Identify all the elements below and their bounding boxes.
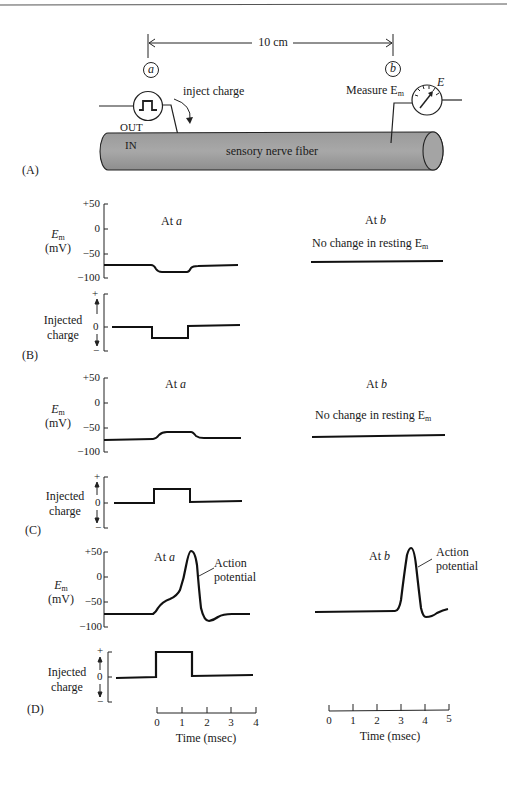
tick-d-plus50: +50 [64,545,102,558]
ap-label-a-1: Action [214,557,247,570]
at-a-label-c: At a [165,378,186,391]
charge-tick-0-b: 0 [93,320,99,333]
charge-label-c-1: Injected [40,490,90,503]
time-tick-b-3: 3 [395,714,407,727]
site-b-label: b [385,62,401,75]
trace-c-em-b [312,435,445,437]
charge-tick-minus-b: − [93,344,99,357]
distance-label: 10 cm [253,36,293,49]
ap-label-b-2: potential [436,560,478,573]
time-tick-b-2: 2 [371,714,383,727]
charge-tick-plus-d: + [97,644,103,657]
tick-b-minus100: −100 [62,271,100,284]
time-tick-a-2: 2 [201,716,213,729]
panel-d-plots [98,548,449,713]
charge-tick-plus-c: + [94,470,100,483]
panel-b-label: (B) [22,349,38,362]
at-a-label-b: At a [161,215,182,228]
fiber-label: sensory nerve fiber [226,145,318,158]
time-tick-a-0: 0 [151,716,163,729]
charge-label-c-2: charge [40,505,90,518]
tick-b-plus50: +50 [62,197,100,210]
charge-tick-plus-b: + [92,287,98,300]
time-tick-b-1: 1 [347,714,359,727]
charge-tick-minus-c: − [95,521,101,534]
trace-c-charge [114,489,242,503]
trace-b-em-a [104,265,238,272]
time-tick-b-5: 5 [443,712,455,725]
site-a-label: a [143,63,159,76]
em-unit-b: (mV) [38,242,78,255]
tick-c-minus100: −100 [62,445,100,458]
time-axis-label-b: Time (msec) [350,730,430,743]
em-unit-d: (mV) [41,593,81,606]
ap-label-a-2: potential [214,571,256,584]
charge-label-b-2: charge [38,329,88,342]
panel-b-plots [95,204,443,351]
panel-c-plots [95,378,445,528]
at-b-label-c: At b [366,378,387,391]
out-label: OUT [120,121,143,134]
charge-tick-0-d: 0 [97,670,103,683]
pulse-generator-icon [134,92,163,121]
no-change-note-b: No change in resting Em [312,237,428,253]
panel-a-label: (A) [22,164,39,177]
at-b-label-d: At b [369,550,390,563]
trace-b-charge [112,325,240,338]
time-axis-b [329,704,449,711]
no-change-note-c: No change in resting Em [315,409,431,425]
at-b-label-b: At b [365,214,386,227]
em-unit-c: (mV) [38,417,78,430]
at-a-label-d: At a [154,551,175,564]
panel-c-label: (C) [25,524,41,537]
ap-label-b-1: Action [436,546,469,559]
tick-c-plus50: +50 [62,371,100,384]
charge-label-d-1: Injected [42,666,92,679]
charge-label-b-1: Injected [38,314,88,327]
time-tick-a-4: 4 [250,716,262,729]
meter-e-label: E [437,76,444,89]
panel-d-label: (D) [27,703,44,716]
time-axis-label-a: Time (msec) [166,732,246,745]
in-label: IN [125,139,137,152]
header-rule [0,4,507,5]
nerve-fiber-figure: 10 cm a b inject charge Measure Em E OUT… [0,0,507,786]
time-axis-a [157,707,256,713]
trace-c-em-a [104,432,241,440]
time-tick-a-3: 3 [225,716,237,729]
trace-b-em-b [311,261,443,262]
inject-charge-label: inject charge [183,85,244,98]
charge-tick-minus-d: − [97,695,103,708]
time-tick-b-4: 4 [419,714,431,727]
trace-d-charge [116,652,253,678]
charge-label-d-2: charge [42,681,92,694]
time-tick-b-0: 0 [323,714,335,727]
time-tick-a-1: 1 [176,716,188,729]
charge-tick-0-c: 0 [95,496,101,509]
measure-em-label: Measure Em [346,84,404,100]
tick-d-minus100: −100 [64,620,102,633]
